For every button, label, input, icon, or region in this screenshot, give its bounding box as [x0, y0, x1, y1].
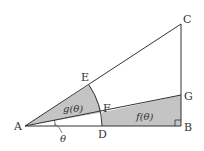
- label-G: G: [184, 90, 193, 103]
- label-A: A: [13, 120, 23, 133]
- label-F: F: [103, 102, 111, 115]
- diagram-svg: A B C D E F G g(θ) f(θ) θ: [0, 0, 204, 151]
- angle-theta-pointer: [55, 124, 62, 133]
- label-E: E: [81, 71, 89, 84]
- label-D: D: [98, 128, 107, 141]
- angle-theta-arc: [55, 120, 56, 126]
- label-B: B: [184, 121, 192, 134]
- label-C: C: [183, 13, 191, 26]
- label-f-theta: f(θ): [135, 111, 154, 122]
- label-g-theta: g(θ): [63, 103, 83, 114]
- geometry-diagram: A B C D E F G g(θ) f(θ) θ: [0, 0, 204, 151]
- label-theta: θ: [60, 133, 66, 144]
